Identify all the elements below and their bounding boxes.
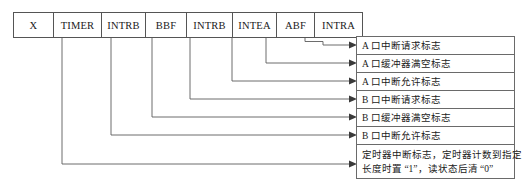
description-abf: A 口缓冲器满空标志: [357, 55, 514, 73]
connector-bbf: [152, 38, 349, 117]
bit-cell-abf: ABF: [277, 13, 315, 37]
description-timer: 定时器中断标志，定时器计数到指定 长度时置 “1”，读状态后清 “0”: [357, 145, 514, 179]
bit-cell-intrb-lower: INTRB: [187, 13, 233, 37]
description-intra: A 口中断请求标志: [357, 37, 514, 55]
connector-intea: [232, 38, 349, 81]
connector-intrb-lower: [190, 38, 349, 99]
description-timer-line1: 定时器中断标志，定时器计数到指定: [362, 148, 514, 162]
bit-cell-timer: TIMER: [54, 13, 102, 37]
description-intrb-upper: B 口中断允许标志: [357, 127, 514, 145]
bit-cell-intea: INTEA: [233, 13, 277, 37]
bit-cell-bbf: BBF: [146, 13, 187, 37]
description-intea: A 口中断允许标志: [357, 73, 514, 91]
connector-timer: [62, 38, 349, 164]
bit-cell-x: X: [14, 13, 54, 37]
description-timer-line2: 长度时置 “1”，读状态后清 “0”: [362, 162, 514, 176]
connector-abf: [266, 38, 349, 63]
bitfield-table: X TIMER INTRB BBF INTRB INTEA ABF INTRA: [13, 12, 363, 38]
connector-intrb-upper: [111, 38, 349, 135]
description-bbf: B 口缓冲器满空标志: [357, 109, 514, 127]
connector-intra: [305, 38, 349, 45]
description-label-stack: A 口中断请求标志 A 口缓冲器满空标志 A 口中断允许标志 B 口中断请求标志…: [356, 36, 515, 179]
description-intrb-lower: B 口中断请求标志: [357, 91, 514, 109]
register-bitfield-diagram: X TIMER INTRB BBF INTRB INTEA ABF INTRA: [0, 0, 532, 196]
bit-cell-intrb-upper: INTRB: [102, 13, 146, 37]
bit-cell-intra: INTRA: [315, 13, 362, 37]
